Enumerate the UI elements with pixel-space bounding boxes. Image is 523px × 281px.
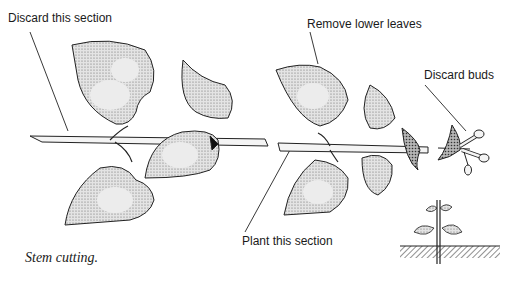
planted-cutting [400, 200, 500, 264]
label-remove-lower-leaves: Remove lower leaves [307, 17, 422, 31]
left-leaves [65, 41, 232, 225]
label-plant-section: Plant this section [242, 234, 333, 248]
label-discard-section: Discard this section [8, 11, 112, 25]
figure-caption: Stem cutting. [25, 250, 98, 266]
buds [460, 130, 489, 175]
right-leaves [276, 65, 460, 215]
label-discard-buds: Discard buds [424, 68, 494, 82]
stem-cutting-diagram: Discard this section Remove lower leaves… [0, 0, 523, 281]
discard-stem [30, 126, 268, 162]
